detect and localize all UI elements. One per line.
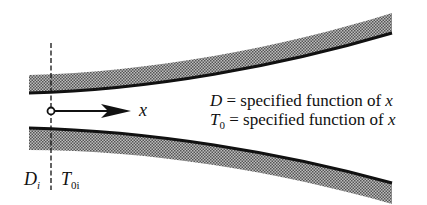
origin-circle [48,108,55,115]
x-axis-label: x [139,101,147,119]
lower-wall-shading [29,128,392,204]
equation-line-d: D = specified function of x [210,92,393,109]
inlet-label-t0: T0i [61,170,80,188]
equation-line-t0: T0 = specified function of x [210,111,396,128]
upper-wall-shading [29,13,392,93]
inlet-label-d: Di [24,170,40,188]
